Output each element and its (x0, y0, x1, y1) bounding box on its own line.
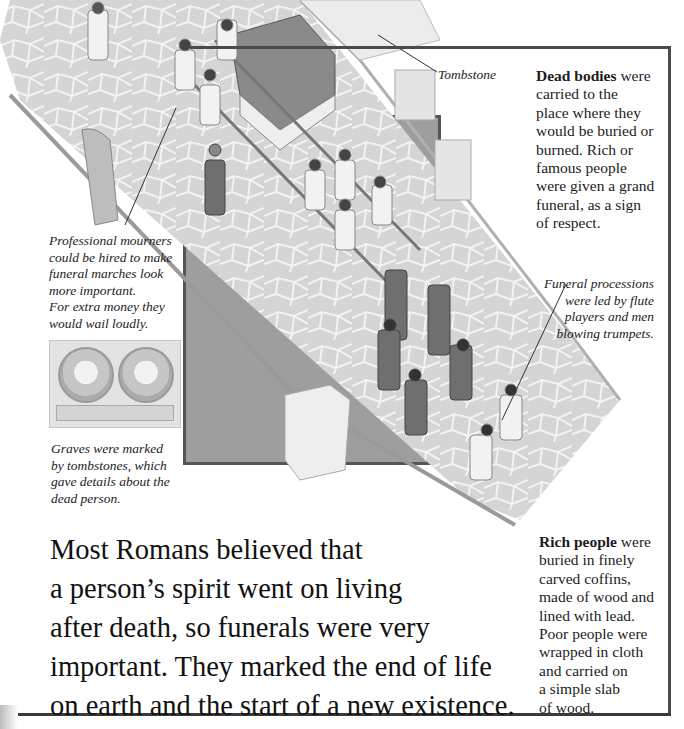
inscription-plaque (56, 405, 174, 421)
processions-caption: Funeral processions were led by flute pl… (540, 276, 654, 342)
mourners-caption: Professional mourners could be hired to … (49, 233, 189, 332)
rich-people-heading: Rich people (539, 533, 617, 550)
graves-caption: Graves were marked by tombstones, which … (51, 441, 191, 507)
dead-bodies-text: Dead bodies were carried to the place wh… (536, 67, 671, 233)
book-page: Tombstone Dead bodies were carried to th… (0, 0, 684, 729)
frame-border-top (190, 46, 670, 49)
background-panel (183, 115, 441, 465)
portrait-medallion-left (58, 347, 114, 403)
tombstone-label: Tombstone (438, 67, 496, 84)
intro-paragraph: Most Romans believed that a person’s spi… (50, 530, 530, 725)
rich-people-text: Rich people were buried in finely carved… (539, 533, 669, 717)
tombstone-relief-image (49, 340, 181, 428)
dead-bodies-heading: Dead bodies (536, 67, 617, 84)
page-gutter-shade (0, 705, 18, 729)
portrait-medallion-right (118, 347, 174, 403)
